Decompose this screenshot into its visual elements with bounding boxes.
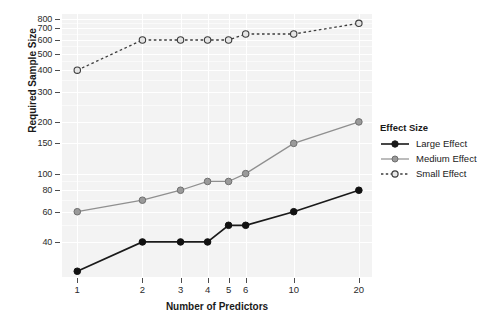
y-tick-label: 60 (42, 207, 52, 217)
data-point (74, 67, 80, 73)
x-tick-label: 10 (288, 284, 299, 295)
x-tick-mark (229, 278, 230, 283)
data-point (139, 239, 146, 246)
y-tick-label: 700 (38, 23, 52, 33)
y-tick-mark (55, 19, 60, 20)
x-tick-label: 6 (243, 284, 248, 295)
data-point (225, 178, 232, 185)
legend-item-medium-effect[interactable]: Medium Effect (380, 151, 488, 166)
legend: Effect Size Large Effect Medium Effect (380, 122, 488, 181)
y-tick-label: 40 (42, 237, 52, 247)
x-tick-label: 20 (354, 284, 365, 295)
y-tick-label: 100 (38, 169, 52, 179)
data-point (139, 197, 146, 204)
y-tick-label: 200 (38, 117, 52, 127)
data-point (177, 37, 183, 43)
x-tick-mark (181, 278, 182, 283)
chart-root: Required Sample Size 4060801001502003004… (0, 0, 488, 325)
y-axis-ticks: 406080100150200300400500600700800 (0, 0, 52, 325)
data-point (356, 20, 362, 26)
legend-key-large-effect (380, 137, 410, 151)
y-tick-label: 400 (38, 65, 52, 75)
data-point (290, 208, 297, 215)
legend-title: Effect Size (380, 122, 488, 133)
y-tick-mark (55, 40, 60, 41)
y-tick-mark (55, 190, 60, 191)
y-tick-mark (55, 174, 60, 175)
legend-key-medium-effect (380, 152, 410, 166)
y-tick-label: 150 (38, 138, 52, 148)
data-point (204, 37, 210, 43)
y-tick-label: 300 (38, 87, 52, 97)
x-tick-mark (246, 278, 247, 283)
data-point (139, 37, 145, 43)
series-line-medium-effect (77, 122, 359, 212)
x-tick-mark (77, 278, 78, 283)
x-tick-label: 2 (140, 284, 145, 295)
y-tick-mark (55, 92, 60, 93)
data-point (225, 37, 231, 43)
plot-panel (62, 14, 372, 277)
y-tick-label: 80 (42, 185, 52, 195)
data-point (204, 178, 211, 185)
data-point (177, 239, 184, 246)
data-point (242, 170, 249, 177)
x-tick-mark (359, 278, 360, 283)
x-tick-mark (294, 278, 295, 283)
y-tick-mark (55, 28, 60, 29)
y-tick-label: 500 (38, 49, 52, 59)
data-point (356, 187, 363, 194)
data-point (356, 119, 363, 126)
y-tick-mark (55, 143, 60, 144)
data-point (74, 208, 81, 215)
x-tick-label: 5 (226, 284, 231, 295)
y-tick-mark (55, 242, 60, 243)
x-tick-mark (142, 278, 143, 283)
data-point (177, 187, 184, 194)
legend-label-small-effect: Small Effect (416, 168, 467, 179)
data-point (290, 140, 297, 147)
y-tick-label: 800 (38, 14, 52, 24)
data-point (242, 31, 248, 37)
x-tick-mark (208, 278, 209, 283)
y-tick-mark (55, 122, 60, 123)
x-axis-title: Number of Predictors (62, 301, 372, 312)
legend-key-small-effect (380, 167, 410, 181)
legend-item-small-effect[interactable]: Small Effect (380, 166, 488, 181)
y-tick-mark (55, 70, 60, 71)
series-line-small-effect (77, 23, 359, 70)
series-line-large-effect (77, 190, 359, 271)
x-tick-label: 3 (178, 284, 183, 295)
x-tick-label: 1 (75, 284, 80, 295)
legend-label-medium-effect: Medium Effect (416, 153, 477, 164)
legend-label-large-effect: Large Effect (416, 138, 467, 149)
y-tick-label: 600 (38, 35, 52, 45)
data-point (74, 268, 81, 275)
series-layer (62, 14, 372, 277)
legend-item-large-effect[interactable]: Large Effect (380, 136, 488, 151)
y-tick-mark (55, 212, 60, 213)
data-point (291, 31, 297, 37)
data-point (204, 239, 211, 246)
data-point (225, 222, 232, 229)
y-tick-mark (55, 54, 60, 55)
x-tick-label: 4 (205, 284, 210, 295)
data-point (242, 222, 249, 229)
